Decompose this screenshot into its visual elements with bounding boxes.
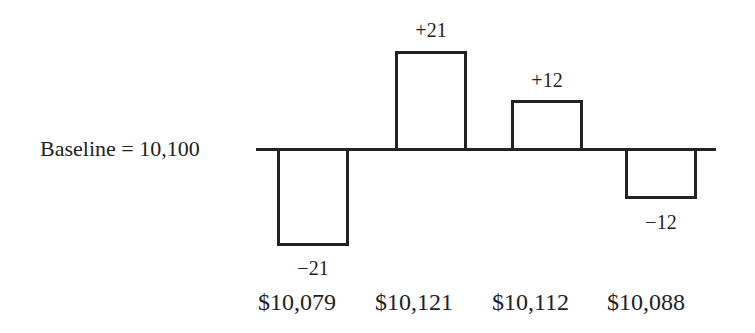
bar-4 (625, 148, 697, 199)
bar-1-value-label: −21 (277, 256, 349, 280)
bar-2-value-label: +21 (395, 18, 467, 42)
bar-4-value-label: −12 (625, 210, 697, 234)
category-label-1: $10,079 (258, 287, 336, 317)
bar-1 (277, 148, 349, 246)
bar-2 (395, 51, 467, 151)
category-labels: $10,079 $10,121 $10,112 $10,088 (258, 287, 718, 317)
bar-3 (511, 100, 583, 151)
category-label-2: $10,121 (375, 287, 453, 317)
deviation-bar-chart: Baseline = 10,100 −21 +21 +12 −12 $10,07… (0, 0, 755, 333)
category-label-3: $10,112 (492, 287, 569, 317)
baseline-label: Baseline = 10,100 (40, 136, 200, 162)
bar-3-value-label: +12 (511, 68, 583, 92)
category-label-4: $10,088 (607, 287, 685, 317)
